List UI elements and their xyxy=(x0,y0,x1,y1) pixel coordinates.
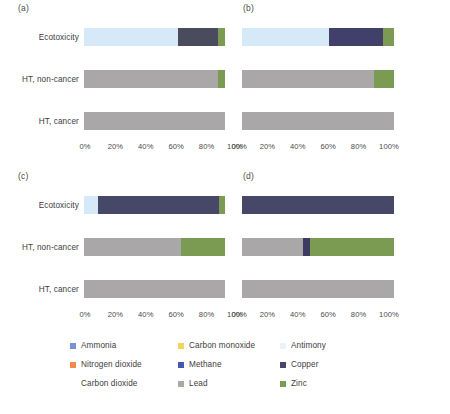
stacked-bar-track xyxy=(242,112,394,130)
legend-swatch-icon xyxy=(280,362,286,368)
panel-row-top: (a) Ecotoxicity HT, non-cancer xyxy=(0,0,450,158)
segment-zinc xyxy=(218,70,225,88)
panel-b-plot: 0% 20% 40% 60% 80% 100% xyxy=(225,16,450,158)
panel-c-plot: Ecotoxicity HT, non-cancer HT, ca xyxy=(0,184,225,326)
stacked-bar-track xyxy=(84,196,225,214)
panel-c-label: (c) xyxy=(0,168,225,184)
legend-swatch-icon xyxy=(178,343,184,349)
panel-a: (a) Ecotoxicity HT, non-cancer xyxy=(0,0,225,158)
legend-item-methane[interactable]: Methane xyxy=(178,360,280,369)
x-axis: 0% 20% 40% 60% 80% 100% xyxy=(0,142,225,158)
panel-a-label: (a) xyxy=(0,0,225,16)
segment-zinc xyxy=(181,238,225,256)
bar-row xyxy=(225,100,450,142)
legend-swatch-icon xyxy=(178,362,184,368)
segment-lead xyxy=(242,70,374,88)
segment-antimony xyxy=(84,196,98,214)
x-tick-label: 80% xyxy=(199,142,215,151)
x-tick-label: 40% xyxy=(138,142,154,151)
legend-item-ammonia[interactable]: Ammonia xyxy=(70,341,178,350)
panel-row-bottom: (c) Ecotoxicity HT, non-cancer xyxy=(0,168,450,326)
legend-label: Nitrogen dioxide xyxy=(81,360,142,369)
panel-d-label: (d) xyxy=(225,168,450,184)
x-tick-label: 40% xyxy=(290,310,306,319)
segment-lead xyxy=(242,280,394,298)
stacked-bar-track xyxy=(242,28,394,46)
stacked-bar-track xyxy=(84,70,225,88)
x-tick-label: 100% xyxy=(379,142,399,151)
segment-copper xyxy=(303,238,311,256)
legend-item-carbon-monoxide[interactable]: Carbon monoxide xyxy=(178,341,280,350)
bar-row: Ecotoxicity xyxy=(0,16,225,58)
legend-item-carbon-dioxide[interactable]: Carbon dioxide xyxy=(70,379,178,388)
x-tick-label: 60% xyxy=(168,142,184,151)
legend-label: Lead xyxy=(189,379,208,388)
legend-item-zinc[interactable]: Zinc xyxy=(280,379,380,388)
stacked-bar-track xyxy=(242,70,394,88)
legend-item-nitrogen-dioxide[interactable]: Nitrogen dioxide xyxy=(70,360,178,369)
category-label: Ecotoxicity xyxy=(0,33,84,42)
segment-copper xyxy=(98,196,219,214)
legend-swatch-icon xyxy=(70,343,76,349)
stacked-bar-track xyxy=(242,280,394,298)
category-label: Ecotoxicity xyxy=(0,201,84,210)
legend-grid: Ammonia Carbon monoxide Antimony Nitroge… xyxy=(70,336,380,393)
legend-swatch-icon xyxy=(178,381,184,387)
x-tick-label: 0% xyxy=(231,142,242,151)
legend: Ammonia Carbon monoxide Antimony Nitroge… xyxy=(0,336,450,393)
segment-zinc xyxy=(374,70,394,88)
x-tick-label: 40% xyxy=(138,310,154,319)
bar-row xyxy=(225,58,450,100)
segment-antimony xyxy=(84,28,179,46)
legend-item-antimony[interactable]: Antimony xyxy=(280,341,380,350)
legend-item-copper[interactable]: Copper xyxy=(280,360,380,369)
x-tick-label: 20% xyxy=(108,310,124,319)
stacked-bar-track xyxy=(84,280,225,298)
panel-d-plot: 0% 20% 40% 60% 80% 100% xyxy=(225,184,450,326)
bar-row: HT, non-cancer xyxy=(0,226,225,268)
segment-zinc xyxy=(218,28,225,46)
legend-label: Ammonia xyxy=(81,341,116,350)
bar-row xyxy=(225,184,450,226)
bar-row xyxy=(225,268,450,310)
x-tick-label: 60% xyxy=(320,310,336,319)
legend-swatch-icon xyxy=(70,381,76,387)
segment-zinc xyxy=(383,28,394,46)
panel-b: (b) xyxy=(225,0,450,158)
x-axis: 0% 20% 40% 60% 80% 100% xyxy=(0,310,225,326)
bar-row: Ecotoxicity xyxy=(0,184,225,226)
legend-label: Copper xyxy=(291,360,318,369)
stacked-bar-track xyxy=(84,28,225,46)
segment-lead xyxy=(84,238,181,256)
stacked-bar-track xyxy=(84,112,225,130)
x-tick-label: 80% xyxy=(351,310,367,319)
legend-label: Methane xyxy=(189,360,222,369)
x-tick-label: 40% xyxy=(290,142,306,151)
x-axis: 0% 20% 40% 60% 80% 100% xyxy=(225,142,450,158)
segment-copper xyxy=(178,28,218,46)
stacked-bar-track xyxy=(84,238,225,256)
x-tick-label: 0% xyxy=(79,142,90,151)
panel-a-plot: Ecotoxicity HT, non-cancer HT, ca xyxy=(0,16,225,158)
x-tick-label: 20% xyxy=(260,310,276,319)
segment-lead xyxy=(242,238,303,256)
segment-lead xyxy=(84,280,225,298)
panel-d: (d) xyxy=(225,168,450,326)
segment-lead xyxy=(84,70,218,88)
legend-label: Carbon monoxide xyxy=(189,341,255,350)
segment-antimony xyxy=(242,28,329,46)
legend-label: Carbon dioxide xyxy=(81,379,137,388)
segment-copper xyxy=(329,28,384,46)
x-tick-label: 0% xyxy=(231,310,242,319)
stacked-bar-track xyxy=(242,238,394,256)
stacked-bar-track xyxy=(242,196,394,214)
x-tick-label: 0% xyxy=(79,310,90,319)
x-tick-label: 20% xyxy=(108,142,124,151)
x-tick-label: 80% xyxy=(351,142,367,151)
x-tick-label: 60% xyxy=(168,310,184,319)
segment-lead xyxy=(242,112,394,130)
legend-item-lead[interactable]: Lead xyxy=(178,379,280,388)
bar-row xyxy=(225,16,450,58)
legend-label: Zinc xyxy=(291,379,307,388)
category-label: HT, non-cancer xyxy=(0,75,84,84)
